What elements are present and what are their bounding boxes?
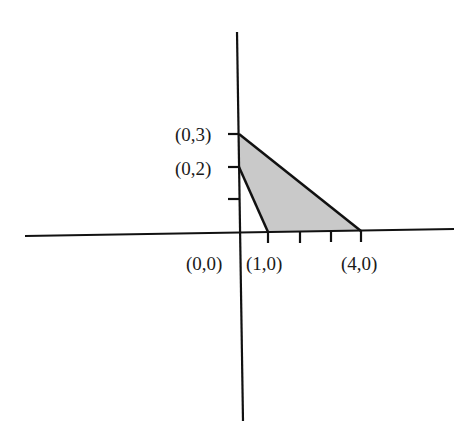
y-axis xyxy=(237,32,243,421)
label-point-0-0: (0,0) xyxy=(186,253,222,275)
label-point-1-0: (1,0) xyxy=(246,253,282,275)
label-point-0-3: (0,3) xyxy=(175,124,211,146)
label-point-0-2: (0,2) xyxy=(175,158,211,180)
feasible-region-diagram: (0,3) (0,2) (0,0) (1,0) (4,0) xyxy=(0,0,463,439)
label-point-4-0: (4,0) xyxy=(341,253,377,275)
